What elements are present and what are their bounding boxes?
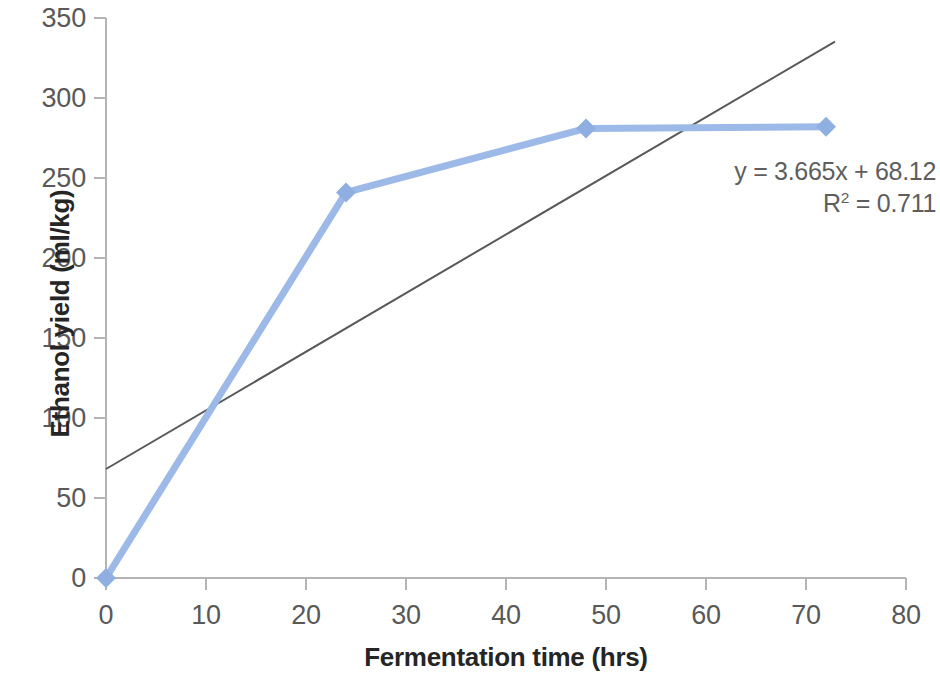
ethanol-yield-line-chart: 350 300 250 200 150 100 50 0 0 10 20 30 … [0, 0, 940, 676]
r2-value: = 0.711 [856, 189, 936, 217]
x-tick-label-30: 30 [391, 600, 421, 631]
y-axis-ticks [94, 18, 106, 578]
y-axis-title: Ethanol yield (ml/kg) [45, 114, 76, 514]
x-tick-label-20: 20 [291, 600, 321, 631]
x-tick-label-60: 60 [691, 600, 721, 631]
data-point-marker[interactable] [816, 117, 836, 137]
x-axis-title: Fermentation time (hrs) [106, 642, 906, 673]
trendline-r2-text: R2 = 0.711 [620, 187, 936, 219]
x-axis-ticks [106, 578, 906, 590]
y-tick-label-300: 300 [8, 83, 86, 114]
r2-symbol: R [823, 189, 841, 217]
data-point-marker[interactable] [576, 118, 596, 138]
chart-plot-area [0, 0, 940, 676]
y-tick-label-0: 0 [8, 563, 86, 594]
x-tick-label-80: 80 [891, 600, 921, 631]
x-tick-label-0: 0 [99, 600, 114, 631]
r2-exponent: 2 [841, 189, 849, 206]
trendline-equation-text: y = 3.665x + 68.12 [620, 155, 936, 187]
y-tick-label-350: 350 [8, 3, 86, 34]
x-tick-label-50: 50 [591, 600, 621, 631]
x-tick-label-40: 40 [491, 600, 521, 631]
trendline-equation-annotation: y = 3.665x + 68.12 R2 = 0.711 [620, 155, 936, 219]
x-tick-label-70: 70 [791, 600, 821, 631]
x-tick-label-10: 10 [191, 600, 221, 631]
